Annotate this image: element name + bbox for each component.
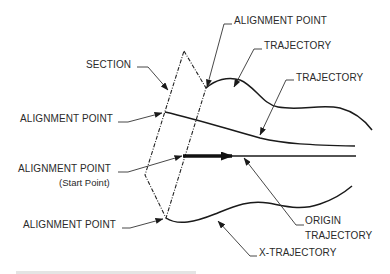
origin-trajectory-label-line2: TRAJECTORY: [305, 230, 373, 241]
upper-trajectory-curve: [206, 78, 372, 130]
trajectory-middle-label: TRAJECTORY: [296, 72, 364, 83]
alignment-point-left-leader: [118, 113, 162, 122]
alignment-point-start-note: (Start Point): [59, 177, 110, 188]
alignment-point-bottom-label: ALIGNMENT POINT: [23, 219, 116, 230]
origin-trajectory-leader: [244, 158, 304, 225]
origin-trajectory-label-line1: ORIGIN: [305, 215, 341, 226]
x-trajectory-label: X-TRAJECTORY: [259, 247, 337, 258]
alignment-point-start-label: ALIGNMENT POINT: [18, 163, 111, 174]
section-outline: [145, 51, 206, 218]
x-trajectory-leader: [218, 221, 257, 256]
section-leader: [137, 67, 168, 90]
alignment-point-left-label: ALIGNMENT POINT: [20, 113, 113, 124]
section-label: SECTION: [86, 59, 131, 70]
alignment-point-bottom-leader: [122, 219, 163, 228]
alignment-point-top-label: ALIGNMENT POINT: [234, 15, 327, 26]
alignment-point-top-leader: [207, 24, 232, 87]
trajectory-upper-label: TRAJECTORY: [264, 40, 332, 51]
alignment-point-start-leader: [118, 156, 182, 172]
trajectory-section-diagram: SECTION ALIGNMENT POINT TRAJECTORY TRAJE…: [0, 0, 390, 274]
trajectory-upper-leader: [234, 49, 262, 87]
